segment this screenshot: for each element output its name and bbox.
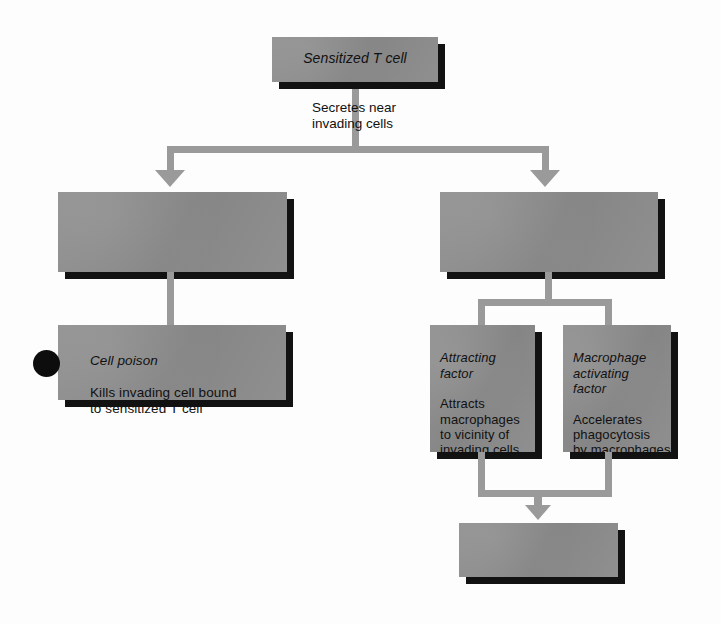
bullet-marker-icon: [33, 350, 60, 377]
node-macrophage-activating-factor[interactable]: Macrophage activating factor Accelerates…: [563, 325, 671, 452]
node-body-macrophage-activating-factor: Accelerates phagocytosis by macrophages: [573, 412, 671, 458]
node-label-sensitized-t-cell: Sensitized T cell: [272, 50, 438, 67]
node-text-macrophage-activating-factor: Macrophage activating factor Accelerates…: [573, 335, 671, 458]
connector-macrophage-down: [605, 452, 612, 493]
edge-label-secretes-near-invading-cells: Secretes near invading cells: [312, 100, 442, 132]
connector-merge-horizontal: [478, 490, 612, 497]
node-text-cell-poison: Cell poison Kills invading cell bound to…: [90, 337, 286, 417]
node-attracting-factor[interactable]: Attracting factor Attracts macrophages t…: [430, 325, 535, 452]
node-title-attracting-factor: Attracting factor: [440, 350, 496, 380]
node-body-attracting-factor: Attracts macrophages to vicinity of inva…: [440, 396, 520, 457]
node-bottom-blank[interactable]: [459, 523, 618, 577]
connector-fork-left-drop: [478, 299, 485, 326]
connector-left-drop: [167, 146, 174, 171]
connector-attracting-down: [478, 452, 485, 493]
node-title-macrophage-activating-factor: Macrophage activating factor: [573, 350, 646, 396]
connector-right-drop: [542, 146, 549, 171]
node-text-attracting-factor: Attracting factor Attracts macrophages t…: [440, 335, 535, 458]
diagram-canvas: Secretes near invading cells Sensitized …: [0, 0, 721, 624]
arrow-to-bottom-node: [525, 505, 551, 520]
node-body-cell-poison: Kills invading cell bound to sensitized …: [90, 385, 237, 416]
connector-right-upper-stem: [545, 272, 552, 300]
connector-right-fork-horizontal: [478, 299, 612, 306]
node-left-upper-blank[interactable]: [58, 192, 287, 272]
node-title-cell-poison: Cell poison: [90, 353, 158, 368]
connector-left-upper-to-cell-poison: [167, 272, 174, 326]
connector-split-horizontal: [167, 146, 549, 153]
arrow-to-right-upper: [530, 170, 560, 187]
connector-fork-right-drop: [605, 299, 612, 326]
node-right-upper-blank[interactable]: [440, 192, 658, 272]
node-sensitized-t-cell[interactable]: Sensitized T cell: [272, 37, 438, 82]
node-cell-poison[interactable]: Cell poison Kills invading cell bound to…: [58, 325, 286, 400]
connector-merge-stem: [534, 490, 542, 506]
arrow-to-left-upper: [155, 170, 185, 187]
